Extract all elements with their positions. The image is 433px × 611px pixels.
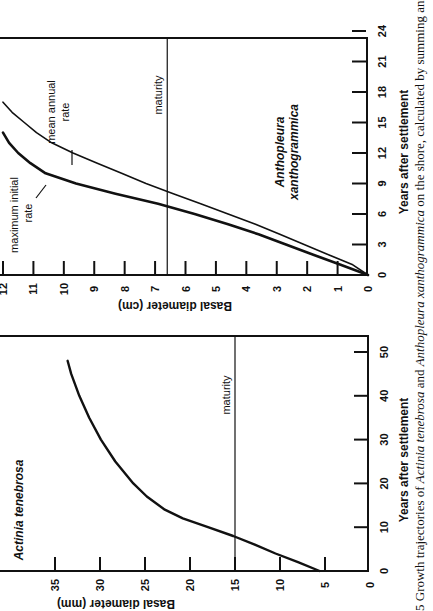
- mean-annual-rate-label: mean annual: [45, 80, 57, 144]
- max-initial-rate-label: maximum initial: [8, 177, 20, 253]
- tick-label: 10: [378, 521, 390, 533]
- tick-label: 9: [376, 180, 388, 186]
- tick-label: 0: [378, 568, 390, 574]
- tick-label: 3: [376, 241, 388, 247]
- max-initial-rate-label-2: rate: [22, 204, 34, 223]
- tick-label: 21: [376, 55, 388, 67]
- panel-anthopleura: 0123456789101112 03691215182124 maturity…: [0, 24, 411, 313]
- diameter-ticks: 05101520253035: [49, 557, 376, 591]
- diameter-ticks: 0123456789101112: [0, 261, 374, 295]
- tick-label: 0: [364, 582, 376, 588]
- growth-curve: [68, 361, 320, 571]
- tick-label: 24: [376, 24, 388, 37]
- series-line: [3, 133, 368, 275]
- caption-suffix: on the shore, calculated by summing annu: [412, 0, 427, 210]
- curve-annotations: maximum initial rate mean annual rate: [8, 80, 72, 253]
- figure-caption: 5 Growth trajectories of Actinia tenebro…: [412, 0, 427, 611]
- tick-label: 35: [49, 579, 61, 591]
- tick-label: 10: [58, 283, 70, 295]
- tick-label: 6: [376, 211, 388, 217]
- tick-label: 50: [378, 346, 390, 358]
- tick-label: 4: [240, 285, 252, 292]
- tick-label: 30: [378, 433, 390, 445]
- maturity-label: maturity: [220, 375, 232, 415]
- tick-label: 5: [210, 286, 222, 292]
- max-initial-rate-pointer: [36, 185, 46, 198]
- tick-label: 0: [376, 272, 388, 278]
- y-axis-title: Basal diameter (cm): [118, 299, 232, 313]
- tick-label: 10: [274, 579, 286, 591]
- tick-label: 1: [332, 286, 344, 292]
- tick-label: 25: [139, 579, 151, 591]
- x-axis-title: Years after settlement: [397, 398, 411, 523]
- tick-label: 15: [229, 579, 241, 591]
- tick-label: 30: [94, 579, 106, 591]
- growth-curves: [3, 102, 368, 275]
- tick-label: 20: [184, 579, 196, 591]
- x-axis-title: Years after settlement: [397, 90, 411, 215]
- tick-label: 15: [376, 116, 388, 128]
- plot-frame: [0, 336, 368, 571]
- series-line: [3, 102, 368, 275]
- tick-label: 2: [301, 286, 313, 292]
- y-axis-title: Basal diameter (mm): [57, 597, 175, 611]
- caption-species-b: Anthopleura xanthogrammica: [412, 209, 427, 367]
- year-ticks: 03691215182124: [352, 24, 388, 278]
- plot-frame: [0, 38, 367, 275]
- caption-species-a: Actinia tenebrosa: [412, 391, 427, 484]
- tick-label: 40: [378, 390, 390, 402]
- tick-label: 12: [376, 147, 388, 159]
- maturity-label: maturity: [152, 75, 164, 115]
- species-title: Actinia tenebrosa: [12, 459, 26, 561]
- tick-label: 0: [362, 286, 374, 292]
- caption-prefix: 5 Growth trajectories of: [412, 483, 427, 611]
- tick-label: 12: [0, 283, 9, 295]
- tick-label: 8: [119, 286, 131, 292]
- caption-mid: and: [412, 366, 427, 391]
- figure: 0123456789101112 03691215182124 maturity…: [0, 0, 433, 611]
- tick-label: 7: [149, 286, 161, 292]
- tick-label: 9: [88, 286, 100, 292]
- tick-label: 5: [319, 582, 331, 588]
- mean-annual-rate-label-2: rate: [59, 103, 71, 122]
- tick-label: 11: [27, 283, 39, 295]
- species-title-2: xanthogrammica: [287, 104, 301, 201]
- tick-label: 6: [180, 286, 192, 292]
- species-title: Anthopleura: [273, 116, 287, 188]
- panel-actinia: 05101520253035 01020304050 maturity Acti…: [0, 336, 411, 611]
- tick-label: 18: [376, 86, 388, 98]
- tick-label: 20: [378, 477, 390, 489]
- series-line: [68, 361, 320, 571]
- tick-label: 3: [271, 286, 283, 292]
- year-ticks: 01020304050: [354, 346, 390, 574]
